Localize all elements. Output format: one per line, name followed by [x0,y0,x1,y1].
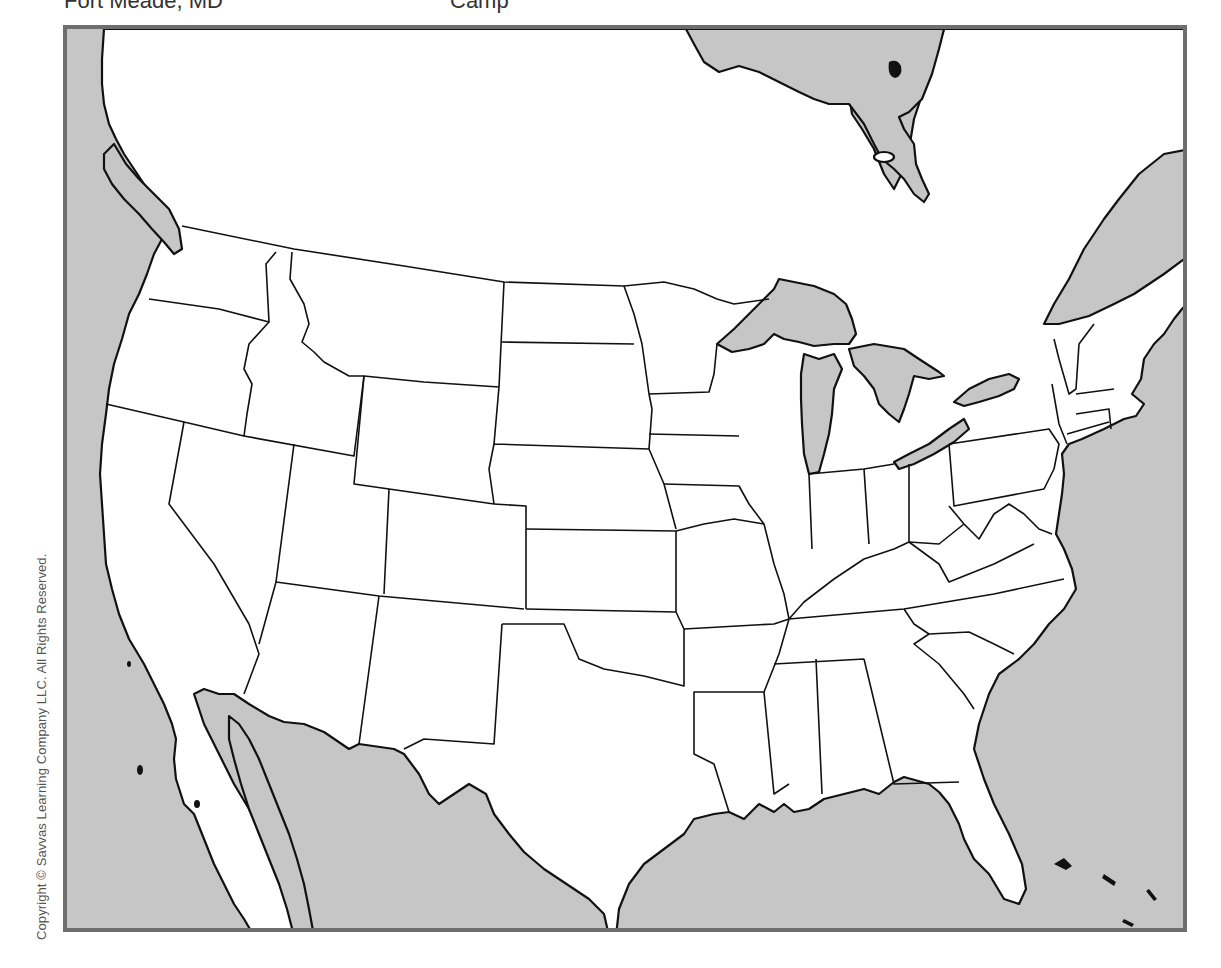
header-camp-text: Camp [450,0,509,14]
map-frame [63,25,1187,932]
header-location-text: Fort Meade, MD [64,0,223,14]
us-outline-map [63,25,1187,932]
copyright-notice: Copyright © Savvas Learning Company LLC.… [34,554,49,940]
lake-okeechobee-inset [874,152,894,162]
